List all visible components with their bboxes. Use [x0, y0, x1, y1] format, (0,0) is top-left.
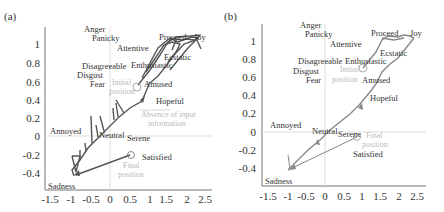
- label-panicky: Panicky: [305, 29, 333, 39]
- label-amused: Amused: [362, 75, 391, 85]
- x-tick: -1.5: [41, 193, 59, 205]
- label-joy: Joy: [194, 32, 207, 42]
- x-tick: 2: [184, 193, 190, 205]
- label-joy: Joy: [410, 28, 423, 38]
- y-tick: -0.2: [23, 149, 40, 161]
- label-serene: Serene: [127, 133, 150, 143]
- x-tick: 0.5: [337, 190, 351, 202]
- figure: (a) 1 0.8 0.6 0.4 0.2 0 -0.2 -0.4 -1.5 -…: [0, 0, 444, 212]
- y-tick: 0.2: [26, 112, 40, 124]
- x-tick: -0.5: [82, 193, 100, 205]
- y-tick: -0.2: [239, 144, 256, 156]
- x-tick: 0: [322, 190, 328, 202]
- annotation-initial: Initial: [340, 65, 360, 74]
- label-neutral: Neutral: [312, 126, 338, 136]
- label-serene: Serene: [338, 129, 361, 139]
- y-tick: 0.4: [26, 94, 40, 106]
- label-fear: Fear: [306, 75, 321, 85]
- label-attentive: Attentive: [330, 39, 362, 49]
- x-tick: 2.5: [198, 193, 212, 205]
- x-tick: 1: [359, 190, 365, 202]
- annotation-absence: Absence of input: [141, 110, 196, 119]
- x-tick: 1: [147, 193, 153, 205]
- x-tick: -1.5: [259, 190, 277, 202]
- x-tick: 1.5: [373, 190, 387, 202]
- x-tick: -0.5: [297, 190, 315, 202]
- label-attentive: Attentive: [117, 43, 149, 53]
- y-tick: 1: [35, 38, 41, 50]
- annotations-a: Initial position Absence of input inform…: [109, 78, 196, 179]
- y-tick: 0.2: [242, 107, 256, 119]
- panel-b: (b) 1 0.8 0.6 0.4 0.2 0 -0.2 -0.4 -1.5 -…: [224, 10, 426, 202]
- label-proceed: Proceed: [371, 28, 399, 38]
- y-tick: 0: [35, 130, 41, 142]
- y-tick-labels: 1 0.8 0.6 0.4 0.2 0 -0.2 -0.4: [23, 38, 41, 179]
- x-tick-labels: -1.5 -1 -0.5 0 0.5 1 1.5 2 2.5: [259, 190, 424, 202]
- y-tick: 1: [251, 35, 257, 47]
- label-annoyed: Annoyed: [270, 120, 302, 130]
- y-tick: 0.8: [26, 57, 40, 69]
- x-tick: -1: [283, 190, 292, 202]
- annotation-initial-position: position: [109, 87, 135, 96]
- y-tick: -0.4: [239, 162, 257, 174]
- y-tick: 0.4: [242, 89, 256, 101]
- panel-a: (a) 1 0.8 0.6 0.4 0.2 0 -0.2 -0.4 -1.5 -…: [4, 10, 212, 205]
- y-tick: -0.4: [23, 167, 41, 179]
- label-sadness: Sadness: [48, 181, 75, 191]
- annotation-final-position: position: [362, 140, 388, 149]
- label-amused: Amused: [144, 79, 173, 89]
- annotation-final: Final: [366, 131, 383, 140]
- label-disagreeable: Disagreeable: [298, 56, 343, 66]
- x-tick: 1.5: [159, 193, 173, 205]
- label-satisfied: Satisfied: [142, 152, 172, 162]
- y-tick: 0.6: [242, 71, 256, 83]
- label-fear: Fear: [90, 79, 105, 89]
- annotation-initial: Initial: [112, 78, 132, 87]
- x-tick: 0: [107, 193, 113, 205]
- y-tick: 0.8: [242, 53, 256, 65]
- panel-b-label: (b): [224, 10, 237, 23]
- x-tick-labels: -1.5 -1 -0.5 0 0.5 1 1.5 2 2.5: [41, 193, 212, 205]
- annotation-information: information: [148, 119, 186, 128]
- panel-a-label: (a): [4, 10, 17, 23]
- label-annoyed: Annoyed: [50, 126, 82, 136]
- y-tick-labels: 1 0.8 0.6 0.4 0.2 0 -0.2 -0.4: [239, 35, 257, 174]
- label-neutral: Neutral: [99, 130, 125, 140]
- x-tick: 2: [396, 190, 402, 202]
- label-satisfied: Satisfied: [353, 149, 383, 159]
- y-tick: 0: [251, 126, 257, 138]
- label-enthusiastic: Enthusiastic: [131, 60, 173, 70]
- label-proceed: Proceed: [159, 32, 187, 42]
- label-panicky: Panicky: [92, 33, 120, 43]
- x-tick: 0.5: [123, 193, 137, 205]
- x-tick: -1: [66, 193, 75, 205]
- label-hopeful: Hopeful: [156, 96, 184, 106]
- label-hopeful: Hopeful: [370, 93, 398, 103]
- annotation-initial-position: position: [332, 75, 358, 84]
- y-tick: 0.6: [26, 76, 40, 88]
- x-tick: 2.5: [410, 190, 424, 202]
- label-sadness: Sadness: [265, 176, 292, 186]
- annotation-final: Final: [123, 161, 140, 170]
- annotation-final-position: position: [118, 170, 144, 179]
